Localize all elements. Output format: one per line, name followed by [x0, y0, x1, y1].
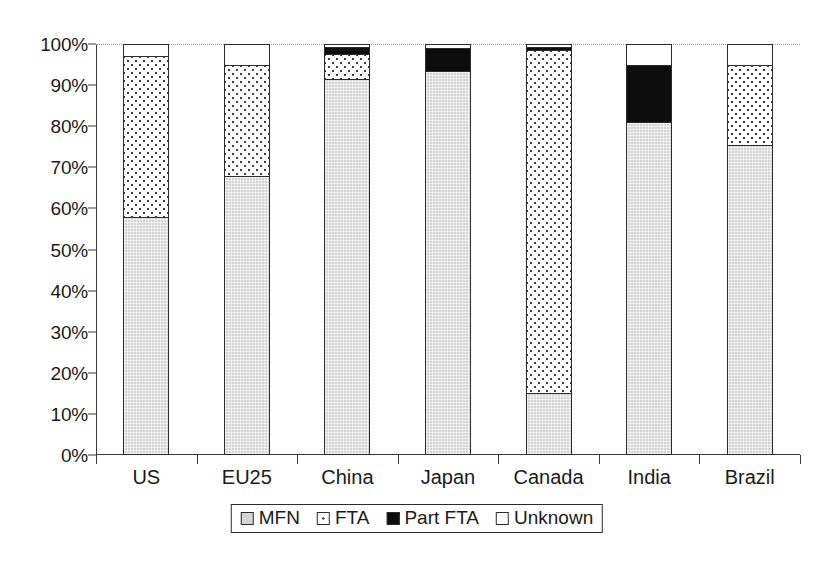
bar-segment-canada-unknown[interactable]: [526, 44, 572, 47]
bar-us[interactable]: [123, 44, 169, 455]
y-tick-mark: [88, 167, 96, 168]
bar-segment-eu25-mfn[interactable]: [224, 176, 270, 455]
y-tick-label: 70%: [10, 158, 88, 177]
legend-item-fta[interactable]: FTA: [317, 508, 369, 528]
y-tick-mark: [88, 290, 96, 291]
y-tick-label: 90%: [10, 76, 88, 95]
bar-slot: [599, 44, 700, 455]
x-tick-mark: [699, 455, 700, 464]
bar-japan[interactable]: [425, 44, 471, 455]
legend-item-part-fta[interactable]: Part FTA: [386, 508, 479, 528]
y-tick-label: 30%: [10, 322, 88, 341]
bar-segment-canada-fta[interactable]: [526, 50, 572, 393]
bar-slot: [498, 44, 599, 455]
bar-segment-china-mfn[interactable]: [324, 79, 370, 455]
chart-legend: MFNFTAPart FTAUnknown: [231, 504, 603, 533]
x-tick-mark: [599, 455, 600, 464]
bar-india[interactable]: [626, 44, 672, 455]
x-tick-mark: [800, 455, 801, 464]
bar-segment-canada-mfn[interactable]: [526, 393, 572, 455]
legend-swatch-icon: [496, 512, 509, 525]
bar-segment-eu25-fta[interactable]: [224, 65, 270, 176]
y-tick-mark: [88, 126, 96, 127]
x-tick-mark: [297, 455, 298, 464]
bar-segment-india-unknown[interactable]: [626, 44, 672, 65]
y-tick-mark: [88, 331, 96, 332]
y-tick-label: 0%: [10, 446, 88, 465]
y-tick-label: 10%: [10, 404, 88, 423]
y-tick-mark: [88, 208, 96, 209]
legend-swatch-icon: [241, 512, 254, 525]
bar-segment-india-part-fta[interactable]: [626, 65, 672, 123]
x-tick-label-brazil: Brazil: [725, 464, 775, 490]
bar-slot: [96, 44, 197, 455]
x-tick-mark: [498, 455, 499, 464]
bar-segment-japan-part-fta[interactable]: [425, 48, 471, 71]
legend-item-mfn[interactable]: MFN: [241, 508, 300, 528]
y-tick-mark: [88, 372, 96, 373]
bar-canada[interactable]: [526, 44, 572, 455]
bar-eu25[interactable]: [224, 44, 270, 455]
bar-slot: [398, 44, 499, 455]
bar-segment-eu25-unknown[interactable]: [224, 44, 270, 65]
x-tick-mark: [197, 455, 198, 464]
bar-segment-brazil-fta[interactable]: [727, 65, 773, 145]
legend-swatch-icon: [386, 512, 399, 525]
bar-slot: [297, 44, 398, 455]
bar-brazil[interactable]: [727, 44, 773, 455]
bar-segment-india-mfn[interactable]: [626, 122, 672, 455]
bar-segment-china-unknown[interactable]: [324, 44, 370, 47]
y-tick-label: 100%: [10, 35, 88, 54]
y-tick-label: 20%: [10, 363, 88, 382]
x-tick-label-eu25: EU25: [222, 464, 272, 490]
legend-item-unknown[interactable]: Unknown: [496, 508, 593, 528]
y-axis-labels: 0%10%20%30%40%50%60%70%80%90%100%: [0, 44, 88, 455]
x-tick-mark: [398, 455, 399, 464]
x-tick-label-japan: Japan: [421, 464, 476, 490]
x-tick-label-canada: Canada: [514, 464, 584, 490]
bar-china[interactable]: [324, 44, 370, 455]
bar-segment-japan-mfn[interactable]: [425, 71, 471, 455]
bar-slot: [197, 44, 298, 455]
y-tick-mark: [88, 413, 96, 414]
y-tick-mark: [88, 44, 96, 45]
y-tick-mark: [88, 249, 96, 250]
legend-label: MFN: [259, 508, 300, 528]
x-axis-labels: USEU25ChinaJapanCanadaIndiaBrazil: [96, 464, 800, 494]
bar-segment-us-unknown[interactable]: [123, 44, 169, 56]
x-tick-mark: [96, 455, 97, 464]
y-tick-label: 80%: [10, 117, 88, 136]
legend-label: Unknown: [514, 508, 593, 528]
bar-slot: [699, 44, 800, 455]
x-tick-label-india: India: [627, 464, 670, 490]
y-tick-label: 40%: [10, 281, 88, 300]
legend-swatch-icon: [317, 512, 330, 525]
y-tick-mark: [88, 455, 96, 456]
bar-segment-brazil-mfn[interactable]: [727, 145, 773, 455]
bar-segment-china-fta[interactable]: [324, 54, 370, 79]
y-tick-mark: [88, 85, 96, 86]
bar-segment-china-part-fta[interactable]: [324, 47, 370, 54]
bar-segment-us-mfn[interactable]: [123, 217, 169, 455]
x-tick-label-china: China: [321, 464, 373, 490]
bar-segment-canada-part-fta[interactable]: [526, 47, 572, 50]
y-tick-label: 60%: [10, 199, 88, 218]
legend-label: FTA: [335, 508, 369, 528]
y-tick-label: 50%: [10, 240, 88, 259]
plot-area: [96, 44, 800, 455]
legend-label: Part FTA: [404, 508, 479, 528]
x-tick-label-us: US: [132, 464, 160, 490]
stacked-bar-chart: 0%10%20%30%40%50%60%70%80%90%100% USEU25…: [0, 0, 834, 567]
bar-segment-brazil-unknown[interactable]: [727, 44, 773, 65]
bar-segment-japan-unknown[interactable]: [425, 44, 471, 48]
bar-segment-us-fta[interactable]: [123, 56, 169, 216]
